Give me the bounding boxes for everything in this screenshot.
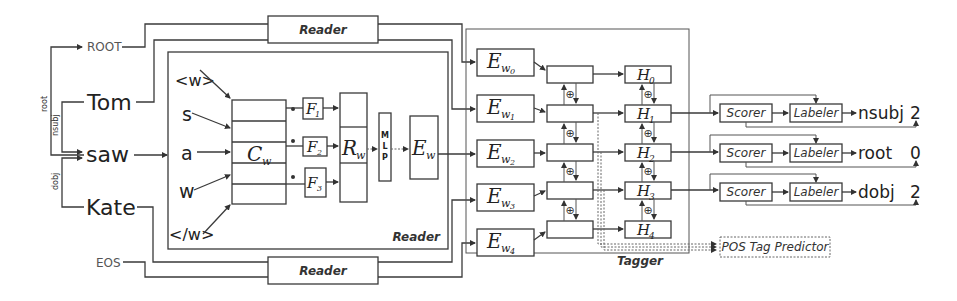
concat-icon: ⊕: [565, 204, 574, 217]
tagger-embedding-2: E w 2: [477, 140, 534, 167]
ew2-symbol: E: [486, 140, 502, 164]
filter-f1: F 1: [303, 98, 323, 119]
ew-symbol: E: [411, 136, 427, 160]
arc-label-dobj: dobj: [51, 173, 60, 190]
hidden-h4: H 4: [625, 221, 671, 241]
concat-icon: ⊕: [565, 165, 574, 178]
tagger-embedding-0: E w 0: [477, 49, 534, 76]
ew-sub: w: [426, 149, 436, 162]
ew0-index: 0: [510, 67, 515, 76]
tagger-label: Tagger: [617, 254, 664, 268]
labeler-label: Labeler: [794, 146, 840, 160]
concat-icon: ⊕: [643, 127, 652, 140]
char-w: w: [179, 180, 195, 202]
tagger-embedding-4: E w 4: [477, 229, 534, 256]
word-saw: saw: [86, 142, 129, 167]
char-start: <w>: [175, 71, 215, 90]
hidden-h3: H 3: [625, 182, 671, 202]
rw-symbol: R: [341, 136, 357, 160]
f3-sub: 3: [317, 184, 322, 193]
cw-symbol: C: [247, 142, 262, 166]
parser-row-2: Scorer Labeler root 0: [671, 135, 921, 167]
input-tokens: ROOT Tom saw Kate EOS: [86, 40, 136, 270]
hidden-h1: H 1: [625, 105, 671, 125]
scorer-label: Scorer: [727, 146, 767, 160]
char-matrix-cw: C w: [245, 142, 275, 168]
head-index: 2: [910, 103, 921, 123]
arc-label-nsubj: nsubj: [51, 114, 60, 136]
char-a: a: [181, 142, 193, 164]
filter-f2: F 2: [303, 137, 327, 157]
ew3-symbol: E: [486, 184, 502, 208]
pos-predictor-label: POS Tag Predictor: [721, 240, 829, 254]
char-end: </w>: [169, 225, 214, 244]
parser-row-1: Scorer Labeler nsubj 2: [671, 95, 921, 127]
tagger-module: Tagger E w 0 E w 1 E w 2 E w 3 E: [466, 29, 716, 268]
concat-icon: ⊕: [565, 127, 574, 140]
concat-icon: ⊕: [565, 88, 574, 101]
concat-icon: ⊕: [643, 88, 652, 101]
reader-label: Reader: [392, 230, 441, 244]
ew1-index: 1: [510, 113, 515, 122]
relation-label-nsubj: nsubj: [858, 103, 904, 123]
h4-sub: 4: [648, 231, 655, 241]
hidden-h2: H 2: [625, 144, 671, 164]
tagger-embedding-3: E w 3: [477, 184, 534, 211]
root-token: ROOT: [87, 40, 122, 54]
mlp-m: M: [381, 131, 389, 140]
bottom-reader-label: Reader: [299, 264, 348, 278]
ew3-index: 3: [510, 202, 515, 211]
ew2-index: 2: [509, 158, 515, 167]
ew4-index: 4: [509, 247, 515, 256]
top-reader-box: Reader: [268, 16, 378, 43]
ew1-symbol: E: [486, 95, 502, 119]
mlp-l: L: [382, 142, 387, 151]
representation-rw: R w: [340, 93, 367, 202]
mlp-p: P: [382, 153, 388, 162]
scorer-label: Scorer: [727, 106, 767, 120]
word-kate: Kate: [86, 195, 136, 220]
labeler-label: Labeler: [794, 185, 840, 199]
ew4-symbol: E: [486, 229, 502, 253]
filter-f3: F 3: [305, 168, 326, 197]
dependency-arcs: root nsubj dobj: [40, 47, 84, 207]
concat-icon: ⊕: [643, 204, 652, 217]
scorer-label: Scorer: [727, 185, 767, 199]
f1-sub: 1: [315, 110, 320, 119]
word-tom: Tom: [86, 90, 132, 115]
tagger-embedding-1: E w 1: [477, 95, 534, 122]
f2-sub: 2: [316, 148, 322, 157]
hidden-h0: H 0: [625, 66, 671, 86]
pos-tag-predictor: POS Tag Predictor: [720, 237, 830, 257]
embedding-ew: E w: [410, 116, 438, 179]
eos-token: EOS: [96, 256, 121, 270]
reader-module: Reader <w> s a w </w> C w F: [168, 52, 475, 249]
head-index: 2: [910, 182, 921, 202]
relation-label-root: root: [858, 143, 892, 163]
rw-sub: w: [356, 149, 366, 162]
cw-sub: w: [262, 155, 272, 168]
architecture-diagram: ROOT Tom saw Kate EOS root nsubj dobj: [0, 0, 957, 301]
relation-label-dobj: dobj: [858, 182, 895, 202]
mlp-block: M L P: [379, 113, 391, 181]
ew0-symbol: E: [486, 49, 502, 73]
parser-row-3: Scorer Labeler dobj 2: [671, 174, 921, 205]
head-index: 0: [910, 143, 921, 163]
top-reader-label: Reader: [299, 23, 348, 37]
concat-icon: ⊕: [643, 165, 652, 178]
labeler-label: Labeler: [794, 106, 840, 120]
arc-label-root: root: [40, 96, 49, 112]
bottom-reader-box: Reader: [268, 257, 378, 284]
char-s: s: [182, 103, 192, 125]
